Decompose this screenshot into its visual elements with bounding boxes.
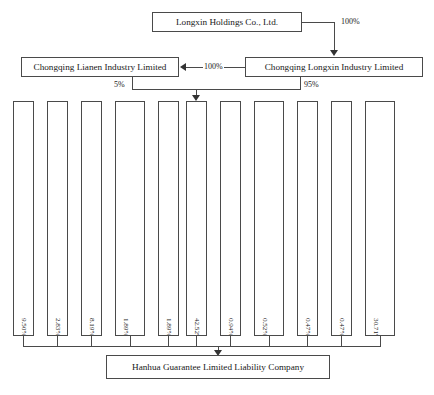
connector-lianen-across xyxy=(132,89,196,90)
edge-label-lianen-to-hanhua-guarantee: 5% xyxy=(113,80,126,89)
connector-stub xyxy=(23,336,24,346)
edge-label-holdings-to-longxin-industry: 100% xyxy=(340,17,361,26)
edge-label-longxin-industry-to-lianen: 100% xyxy=(203,62,224,71)
shareholder-percent: 1.89% xyxy=(159,318,173,336)
shareholder-column-box: Chongqing Huitai Investment Co., Ltd 9.5… xyxy=(13,101,34,336)
connector-holdings-down xyxy=(334,22,335,50)
entity-box-longxin-holdings: Longxin Holdings Co., Ltd. xyxy=(152,12,302,32)
shareholder-name: Chongqing Jicheng Assets Management Ltd. xyxy=(221,106,241,336)
ownership-chart-diagram: Longxin Holdings Co., Ltd. 100% Chongqin… xyxy=(0,0,434,395)
connector-stub xyxy=(196,336,197,346)
connector-stub xyxy=(91,336,92,346)
shareholder-column-box: Xinjiang Bocang Equity Investment Fund P… xyxy=(115,101,145,336)
shareholder-percent: 0.47% xyxy=(332,318,346,336)
connector-stub xyxy=(168,336,169,346)
entity-box-chongqing-lianen: Chongqing Lianen Industry Limited xyxy=(21,57,179,77)
connector-holdings-right xyxy=(302,22,334,23)
shareholder-column-box: Chongqing Boxin Investment Co., Ltd 2.83… xyxy=(47,101,68,336)
shareholder-percent: 9.50% xyxy=(14,318,28,336)
shareholder-percent: 1.89% xyxy=(116,318,130,336)
connector-stub xyxy=(307,336,308,346)
connector-stub xyxy=(380,336,381,346)
shareholder-name: Chongqing Jiulong Metal Recycling Co., L… xyxy=(82,106,102,336)
shareholder-percent: 0.47% xyxy=(298,318,312,336)
shareholder-percent: 42.52% xyxy=(187,318,201,336)
shareholder-column-box: Wang Mingyue and other 18 natural person… xyxy=(365,101,395,336)
connector-stub xyxy=(130,336,131,346)
shareholder-percent: 30.71% xyxy=(366,318,380,336)
shareholder-name: Wang Mingyue and other 18 natural person… xyxy=(366,106,395,336)
arrow-longxin-industry-to-lianen xyxy=(180,63,186,71)
shareholder-name: Zhongjuan Investment Co., Ltd. xyxy=(298,106,318,336)
shareholder-name: Expeditors International of Shanxi Hengt… xyxy=(332,106,352,336)
arrow-holdings-to-longxin-industry xyxy=(330,50,338,56)
connector-lianen-down xyxy=(132,77,133,89)
connector-longxin-industry-down xyxy=(300,77,301,89)
connector-stub xyxy=(57,336,58,346)
shareholder-column-box: Chongqing Puzhaobiology Investment Co., … xyxy=(158,101,179,336)
connector-stub xyxy=(230,336,231,346)
shareholder-percent: 2.83% xyxy=(48,318,62,336)
shareholder-name: Xinjiang Bocang Equity Investment Fund P… xyxy=(116,106,145,336)
entity-box-chongqing-longxin-industry: Chongqing Longxin Industry Limited xyxy=(245,57,423,77)
shareholder-name: Chongqing Puzhaobiology Investment Co., … xyxy=(159,106,179,336)
connector-stub xyxy=(341,336,342,346)
shareholder-column-box: Shenyang Yicheng Union Science and Techn… xyxy=(254,101,284,336)
shareholder-percent: 0.94% xyxy=(221,318,235,336)
shareholder-column-box: Chongqing Jicheng Assets Management Ltd.… xyxy=(220,101,241,336)
entity-box-hanhua-guarantee-limited-liability-company: Hanhua Guarantee Limited Liability Compa… xyxy=(106,355,330,379)
shareholder-column-box: Zhongjuan Investment Co., Ltd. 0.47% xyxy=(297,101,318,336)
shareholder-column-box: Expeditors International of Shanxi Hengt… xyxy=(331,101,352,336)
shareholder-column-box: Chongqing Jiulong Metal Recycling Co., L… xyxy=(81,101,102,336)
shareholder-percent: 0.52% xyxy=(255,318,269,336)
edge-label-longxin-industry-to-hanhua-guarantee: 95% xyxy=(303,80,320,89)
shareholder-name: Shenyang Yicheng Union Science and Techn… xyxy=(255,106,284,336)
shareholder-name: Chongqing Huitai Investment Co., Ltd xyxy=(14,106,34,336)
connector-bottom-bus xyxy=(23,346,381,347)
shareholder-name: Chongqing Boxin Investment Co., Ltd xyxy=(48,106,68,336)
shareholder-name: Hanhua Guarantee Co., Ltd xyxy=(187,106,207,336)
connector-longxin-industry-across xyxy=(196,89,301,90)
connector-stub xyxy=(269,336,270,346)
shareholder-percent: 8.19% xyxy=(82,318,96,336)
shareholder-column-box-hanhua-guarantee: Hanhua Guarantee Co., Ltd 42.52% xyxy=(186,101,207,336)
